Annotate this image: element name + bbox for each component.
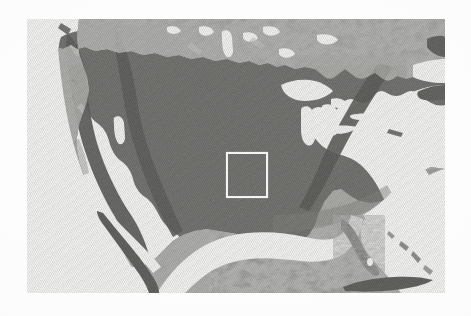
lake-okeechobee <box>367 258 373 266</box>
shaded-relief-map-plate <box>27 19 445 293</box>
florida-peninsula-group <box>333 215 385 281</box>
florida-texture <box>333 215 385 281</box>
study-area-rectangle <box>226 152 268 198</box>
figure-root: Shaded relief map of the conterminous Un… <box>0 0 471 316</box>
